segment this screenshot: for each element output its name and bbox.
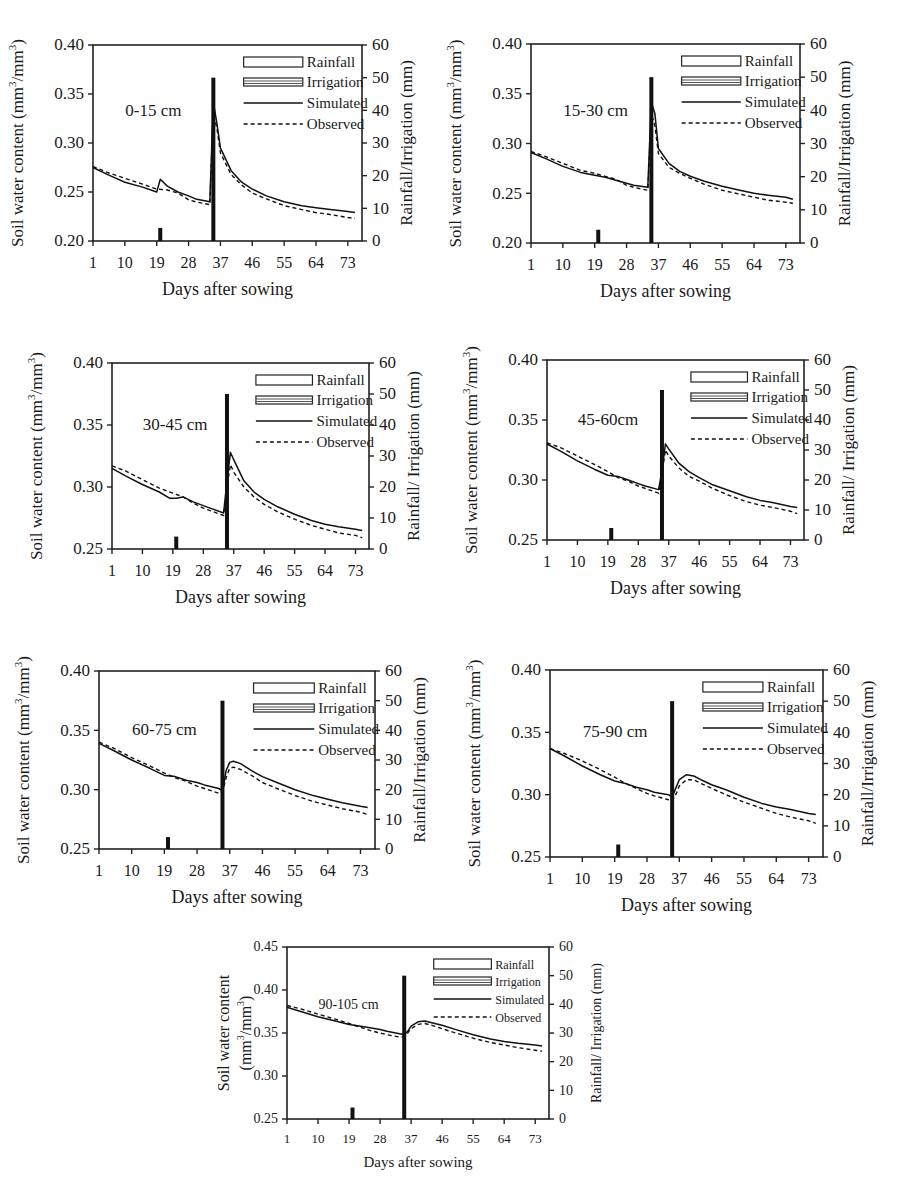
legend: RainfallIrrigationSimulatedObserved [682,53,807,131]
x-tick-label: 10 [124,862,140,879]
legend: RainfallIrrigationSimulatedObserved [256,372,378,450]
y2-axis-label: Rainfall/Irrigation (mm) [410,677,429,843]
y-tick-label: 0.30 [508,470,538,489]
y-tick-label: 0.30 [492,134,522,153]
y2-tick-label: 60 [372,35,389,54]
x-tick-label: 10 [569,553,585,570]
legend-observed-label: Observed [318,742,376,758]
y2-tick-label: 50 [814,380,831,399]
irrigation-legend-swatch [691,393,748,401]
irrigation-legend-swatch [703,703,763,711]
rainfall-bar [351,1108,355,1119]
x-tick-label: 28 [195,562,211,579]
y2-tick-label: 10 [385,810,402,829]
x-tick-label: 46 [436,1131,450,1146]
y2-axis-label: Rainfall/Irrigation (mm) [835,61,854,227]
y2-tick-label: 40 [810,101,827,120]
x-tick-label: 46 [704,870,720,887]
y2-tick-label: 40 [833,723,850,742]
y-tick-label: 0.40 [508,350,538,369]
y-tick-label: 0.20 [54,231,84,250]
x-tick-label: 64 [320,862,336,879]
y2-tick-label: 20 [810,167,827,186]
y-tick-label: 0.45 [254,939,279,954]
x-tick-label: 46 [682,256,698,273]
legend-rainfall-label: Rainfall [318,680,366,696]
rainfall-bar [166,837,170,849]
y-tick-label: 0.40 [60,661,90,680]
x-tick-label: 1 [108,562,116,579]
legend-irrigation-label: Irrigation [307,74,364,90]
y2-tick-label: 20 [379,477,396,496]
x-tick-label: 55 [276,254,292,271]
legend-rainfall-label: Rainfall [745,53,793,69]
irrigation-legend-swatch [254,704,315,712]
y2-tick-label: 30 [372,133,389,152]
y-tick-label: 0.40 [492,34,522,53]
x-axis-label: Days after sowing [175,587,306,607]
x-tick-label: 73 [782,553,798,570]
y2-tick-label: 50 [385,691,402,710]
irrigation-legend-swatch [434,977,492,985]
x-tick-label: 1 [543,553,551,570]
x-tick-label: 55 [467,1131,480,1146]
y2-tick-label: 10 [810,200,827,219]
x-tick-label: 73 [529,1131,542,1146]
y-tick-label: 0.30 [511,785,541,804]
x-axis-label: Days after sowing [363,1154,473,1170]
x-tick-label: 10 [312,1131,325,1146]
x-tick-label: 1 [89,254,97,271]
y-tick-label: 0.25 [60,839,90,858]
x-tick-label: 73 [352,862,368,879]
y2-tick-label: 20 [814,470,831,489]
legend: RainfallIrrigationSimulatedObserved [244,54,369,132]
y-tick-label: 0.35 [511,723,541,742]
x-tick-label: 46 [254,862,270,879]
x-tick-label: 64 [752,553,768,570]
x-axis-label: Days after sowing [162,279,293,299]
simulated-line [547,444,797,508]
irrigation-legend-swatch [256,396,313,404]
x-tick-label: 46 [256,562,272,579]
rainfall-bar [174,537,178,549]
legend-rainfall-label: Rainfall [307,54,355,70]
y-tick-label: 0.20 [492,233,522,252]
x-tick-label: 19 [165,562,181,579]
y2-tick-label: 60 [385,661,402,680]
irrigation-bar [670,701,674,857]
x-tick-label: 28 [181,254,197,271]
legend: RainfallIrrigationSimulatedObserved [691,369,813,447]
legend-irrigation-label: Irrigation [745,73,802,89]
legend: RainfallIrrigationSimulatedObserved [434,958,544,1025]
x-tick-label: 1 [527,256,535,273]
x-tick-label: 1 [95,862,103,879]
y-tick-label: 0.35 [508,410,538,429]
y2-tick-label: 30 [814,440,831,459]
y-tick-label: 0.30 [73,477,103,496]
legend-simulated-label: Simulated [751,410,812,426]
legend-irrigation-label: Irrigation [751,389,808,405]
x-tick-label: 19 [343,1131,356,1146]
panel-depth-label: 0-15 cm [125,101,181,120]
chart-panel-30-45cm: 0.250.300.350.40010203040506011019283746… [25,352,423,607]
x-tick-label: 55 [287,562,303,579]
y2-tick-label: 30 [385,750,402,769]
y2-tick-label: 20 [372,166,389,185]
y2-axis-label: Rainfall/Irrigation (mm) [397,60,416,226]
panel-depth-label: 45-60cm [578,410,638,429]
x-tick-label: 64 [317,562,333,579]
y2-tick-label: 40 [559,997,573,1012]
x-tick-label: 28 [374,1131,387,1146]
legend-simulated-label: Simulated [318,721,379,737]
x-tick-label: 73 [801,870,817,887]
y2-tick-label: 20 [559,1054,573,1069]
y2-tick-label: 10 [814,500,831,519]
y-tick-label: 0.25 [254,1111,279,1126]
legend-observed-label: Observed [307,116,365,132]
x-tick-label: 37 [212,254,228,271]
rainfall-bar [596,230,600,243]
x-axis-label: Days after sowing [172,887,303,907]
y2-tick-label: 10 [379,508,396,527]
y2-tick-label: 20 [385,780,402,799]
y2-tick-label: 30 [833,754,850,773]
